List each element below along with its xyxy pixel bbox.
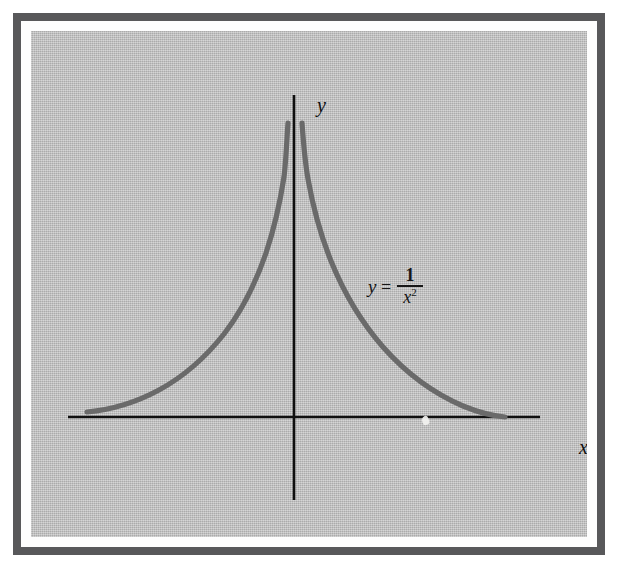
plot-surface: y x y = 1 x2 [31, 31, 587, 537]
equation-denominator: x2 [399, 287, 421, 306]
equation-fraction: 1 x2 [397, 266, 423, 306]
figure-frame-border: y x y = 1 x2 [13, 13, 605, 555]
equation-denominator-exponent: 2 [411, 286, 417, 298]
equation-annotation: y = 1 x2 [368, 267, 423, 307]
equation-numerator: 1 [401, 266, 420, 285]
graph-drawing [31, 31, 587, 537]
figure-frame-mat: y x y = 1 x2 [21, 21, 597, 547]
page-outer-margin: y x y = 1 x2 [0, 0, 618, 568]
y-axis-label: y [317, 95, 326, 115]
equation-equals-sign: = [381, 278, 391, 296]
figure-page: y x y = 1 x2 [0, 0, 618, 568]
curve-left-branch [87, 123, 288, 412]
equation-lhs: y [368, 277, 377, 296]
x-axis-label: x [579, 437, 587, 457]
